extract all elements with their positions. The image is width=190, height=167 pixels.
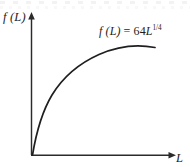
equation-lhs: f (L): [99, 24, 121, 38]
x-axis-arrow-icon: [169, 152, 177, 159]
equation-variable: L: [146, 24, 153, 38]
equation-coefficient: 64: [134, 24, 146, 38]
y-axis-label: f (L): [3, 11, 26, 24]
production-function-curve: [33, 46, 156, 155]
x-axis-label: L: [176, 152, 183, 165]
equation-equals: =: [121, 24, 134, 38]
equation-exponent: 1/4: [153, 24, 162, 32]
y-axis-arrow-icon: [28, 12, 35, 20]
production-function-figure: f (L) L f (L) = 64L1/4: [0, 0, 190, 167]
plot-canvas: [0, 0, 190, 167]
curve-equation-annotation: f (L) = 64L1/4: [99, 25, 161, 37]
